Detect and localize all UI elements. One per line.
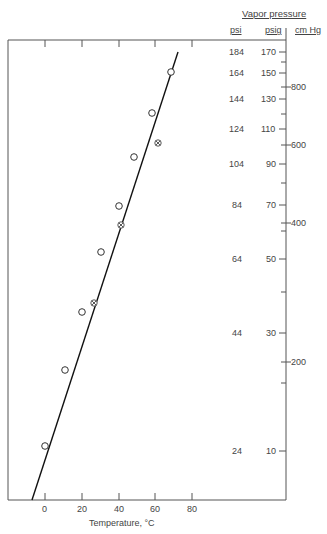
x-tick-label: 40 xyxy=(114,504,124,514)
cmhg-tick-label: 400 xyxy=(291,218,306,228)
psig-tick-label: 70 xyxy=(266,200,276,210)
psi-tick-label: 64 xyxy=(232,254,242,264)
x-axis-label: Temperature, °C xyxy=(89,518,155,528)
x-tick-label: 60 xyxy=(150,504,160,514)
psi-tick-label: 124 xyxy=(229,124,244,134)
psig-tick-label: 170 xyxy=(261,47,276,57)
psig-header: psig xyxy=(265,25,282,35)
psi-tick-label: 104 xyxy=(229,159,244,169)
psi-tick-label: 184 xyxy=(229,47,244,57)
psi-tick-label: 24 xyxy=(232,446,242,456)
psig-tick-label: 150 xyxy=(261,68,276,78)
cmhg-header: cm Hg xyxy=(295,25,321,35)
cmhg-tick-label: 200 xyxy=(291,357,306,367)
psi-tick-label: 164 xyxy=(229,68,244,78)
cmhg-tick-label: 600 xyxy=(291,140,306,150)
psig-tick-label: 50 xyxy=(266,254,276,264)
psig-tick-label: 30 xyxy=(266,328,276,338)
psi-tick-label: 84 xyxy=(232,200,242,210)
x-ticks-top xyxy=(45,40,192,47)
psig-tick-label: 10 xyxy=(266,446,276,456)
chart-canvas xyxy=(0,0,327,534)
chart-title: Vapor pressure xyxy=(242,8,306,19)
x-tick-label: 80 xyxy=(187,504,197,514)
psi-tick-label: 44 xyxy=(232,328,242,338)
psig-ticks xyxy=(279,52,286,451)
psig-tick-label: 110 xyxy=(261,124,275,134)
psi-header: psi xyxy=(230,25,242,35)
fitted-line xyxy=(32,52,178,500)
x-ticks-bottom xyxy=(45,493,192,500)
x-tick-label: 0 xyxy=(42,504,47,514)
crossed-circle-points xyxy=(91,140,161,306)
psig-tick-label: 130 xyxy=(261,94,276,104)
cmhg-tick-label: 800 xyxy=(291,82,306,92)
psi-tick-label: 144 xyxy=(229,94,244,104)
x-tick-label: 20 xyxy=(77,504,87,514)
psig-tick-label: 90 xyxy=(266,159,276,169)
